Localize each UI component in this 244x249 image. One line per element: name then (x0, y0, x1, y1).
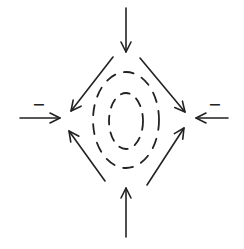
lower-right-diagonal-arrow (147, 128, 184, 185)
lower-left-diagonal-arrow (69, 131, 105, 181)
upper-left-diagonal-arrow (71, 57, 113, 111)
inner-dashed-contour (109, 93, 143, 149)
outer-dashed-contour (93, 72, 159, 168)
diagram-canvas (0, 0, 244, 249)
upper-right-diagonal-arrow (140, 58, 185, 112)
saddle-flow-diagram: − − (0, 0, 244, 249)
right-minus-sign: − (208, 97, 221, 113)
left-minus-sign: − (32, 97, 45, 113)
